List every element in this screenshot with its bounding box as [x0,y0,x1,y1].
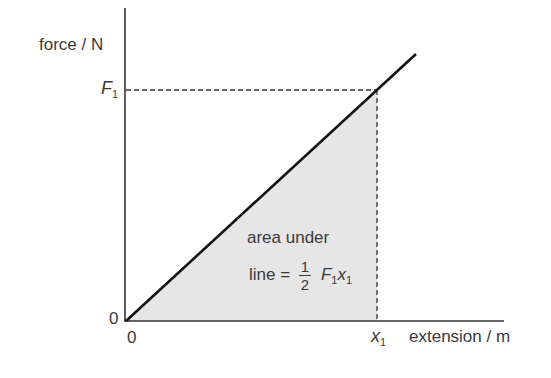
half-fraction: 12 [299,258,311,293]
x-origin-label: 0 [127,328,136,348]
y-origin-label: 0 [109,309,118,329]
x-axis-label: extension / m [409,327,510,347]
f1-marker: F1 [101,78,118,100]
y-axis-label: force / N [39,35,103,55]
area-annotation-line1: area under [247,228,329,248]
area-annotation-line2: line = 12 F1x1 [249,258,352,293]
force-extension-graph [0,0,551,378]
x1-marker: x1 [371,326,386,348]
